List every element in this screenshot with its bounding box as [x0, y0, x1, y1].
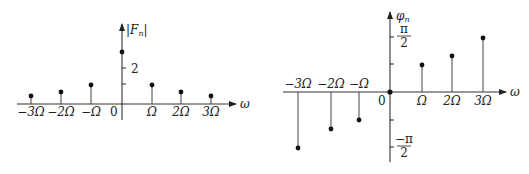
y-tick-label-pi-half: π 2	[397, 22, 411, 50]
data-point	[450, 54, 455, 59]
data-point	[420, 63, 425, 68]
x-tick-label: 2Ω	[171, 105, 190, 119]
svg-text:π: π	[400, 22, 408, 36]
y-tick-label-2: 2	[131, 62, 139, 76]
x-tick-label: 2Ω	[442, 94, 461, 108]
data-point	[29, 94, 34, 99]
x-tick-label: −Ω	[81, 105, 101, 119]
amplitude-spectrum-chart: ω |Fn| 2 0 −3Ω −2Ω −Ω Ω 2Ω 3Ω	[17, 23, 250, 120]
x-tick-label: −3Ω	[284, 77, 312, 91]
svg-text:−π: −π	[395, 132, 413, 146]
svg-text:2: 2	[400, 146, 408, 160]
x-tick-label: −Ω	[349, 77, 369, 91]
svg-text:2: 2	[400, 36, 408, 50]
data-point	[150, 83, 155, 88]
data-point	[357, 118, 362, 123]
x-tick-label: −2Ω	[47, 105, 75, 119]
x-axis-label: ω	[510, 85, 520, 99]
data-point	[89, 83, 94, 88]
x-tick-label: Ω	[146, 105, 157, 119]
data-point	[481, 36, 486, 41]
data-point	[209, 94, 214, 99]
y-axis-label: |Fn|	[126, 23, 148, 38]
origin-label: 0	[110, 105, 118, 119]
x-tick-label: 3Ω	[474, 94, 492, 108]
data-point-origin	[387, 89, 392, 94]
phase-spectrum-chart: ω φn π 2 −π 2 0	[283, 9, 520, 162]
x-axis-label: ω	[240, 97, 250, 111]
data-point	[59, 90, 64, 95]
x-tick-label: −2Ω	[317, 77, 345, 91]
data-point	[296, 146, 301, 151]
x-tick-label: 3Ω	[202, 105, 220, 119]
x-tick-label: Ω	[416, 94, 427, 108]
data-point	[120, 50, 125, 55]
data-point	[179, 90, 184, 95]
x-tick-label: −3Ω	[17, 105, 45, 119]
data-point	[329, 127, 334, 132]
spectrum-diagram: ω |Fn| 2 0 −3Ω −2Ω −Ω Ω 2Ω 3Ω ω	[0, 0, 529, 174]
origin-label: 0	[378, 94, 386, 108]
y-tick-label-neg-pi-half: −π 2	[395, 132, 413, 160]
